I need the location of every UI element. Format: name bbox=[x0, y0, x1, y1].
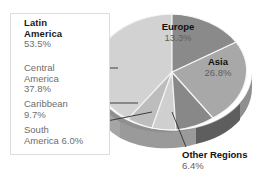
callout-south-america-pct: 6.0% bbox=[61, 135, 83, 146]
callout-south-america[interactable]: South America 6.0% bbox=[24, 125, 83, 146]
callout-central-america-pct: 37.8% bbox=[24, 84, 59, 95]
pie-label-europe-pct: 13.3% bbox=[152, 33, 204, 44]
callout-latin-america-pct: 53.5% bbox=[24, 39, 62, 50]
pie-label-other-regions-pct: 6.4% bbox=[182, 161, 260, 172]
pie-label-asia[interactable]: Asia 26.8% bbox=[196, 57, 240, 78]
pie-chart-figure: Latin America 53.5% Central America 37.8… bbox=[0, 0, 261, 183]
callout-south-america-name-line2-text: America bbox=[24, 135, 59, 146]
callout-caribbean[interactable]: Caribbean 9.7% bbox=[24, 99, 68, 120]
callout-central-america[interactable]: Central America 37.8% bbox=[24, 63, 59, 95]
pie-label-other-regions[interactable]: Other Regions 6.4% bbox=[182, 150, 260, 171]
callout-south-america-name-line2: America 6.0% bbox=[24, 136, 83, 147]
callout-caribbean-pct: 9.7% bbox=[24, 110, 68, 121]
pie-label-asia-pct: 26.8% bbox=[196, 68, 240, 79]
pie-label-europe[interactable]: Europe 13.3% bbox=[152, 22, 204, 43]
callout-latin-america[interactable]: Latin America 53.5% bbox=[24, 18, 62, 50]
